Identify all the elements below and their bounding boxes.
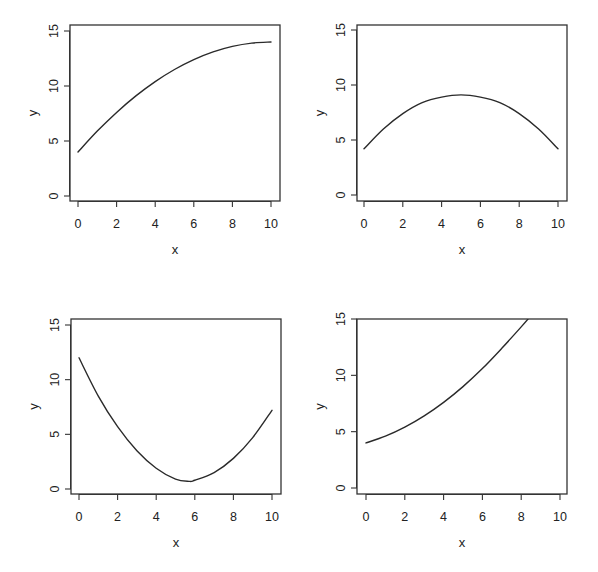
x-tick-label: 8 — [229, 217, 236, 231]
y-tick-label: 0 — [47, 192, 61, 199]
y-tick-label: 5 — [334, 428, 348, 435]
plot-panel-top-left: 0246810x051015y — [25, 24, 281, 257]
y-tick-label: 15 — [334, 23, 348, 37]
x-tick-label: 0 — [76, 510, 83, 524]
y-axis: 051015y — [25, 24, 71, 199]
y-axis-title: y — [312, 403, 327, 410]
x-tick-label: 2 — [399, 217, 406, 231]
x-axis: 0246810x — [361, 201, 565, 257]
x-tick-label: 6 — [191, 510, 198, 524]
x-tick-label: 0 — [363, 510, 370, 524]
x-tick-label: 2 — [114, 510, 121, 524]
y-tick-label: 10 — [334, 78, 348, 92]
x-tick-label: 8 — [516, 217, 523, 231]
data-curve — [364, 95, 558, 149]
y-axis-title: y — [25, 109, 40, 116]
x-tick-label: 10 — [264, 217, 278, 231]
y-tick-label: 15 — [47, 24, 61, 38]
y-tick-label: 5 — [334, 136, 348, 143]
x-axis: 0246810x — [75, 201, 278, 257]
y-tick-label: 0 — [48, 485, 62, 492]
x-tick-label: 8 — [518, 510, 525, 524]
y-tick-label: 15 — [334, 312, 348, 326]
x-axis-title: x — [459, 242, 466, 257]
y-axis: 051015y — [26, 318, 72, 492]
x-tick-label: 0 — [361, 217, 368, 231]
y-axis-title: y — [26, 403, 41, 410]
x-tick-label: 6 — [477, 217, 484, 231]
x-tick-label: 0 — [75, 217, 82, 231]
x-tick-label: 2 — [401, 510, 408, 524]
x-tick-label: 4 — [153, 510, 160, 524]
y-tick-label: 10 — [334, 368, 348, 382]
y-axis: 051015y — [312, 23, 358, 198]
plot-panel-bottom-right: 0246810x051015y — [312, 312, 568, 550]
data-curve — [78, 42, 271, 152]
x-tick-label: 2 — [113, 217, 120, 231]
x-tick-label: 4 — [152, 217, 159, 231]
plot-panel-bottom-left: 0246810x051015y — [26, 318, 282, 550]
plot-frame — [71, 319, 281, 494]
plot-frame — [357, 319, 567, 494]
x-tick-label: 10 — [551, 217, 565, 231]
x-axis-title: x — [172, 242, 179, 257]
figure: 0246810x051015y0246810x051015y0246810x05… — [0, 0, 598, 572]
plot-frame — [70, 25, 280, 201]
x-tick-label: 4 — [440, 510, 447, 524]
x-tick-label: 6 — [479, 510, 486, 524]
y-tick-label: 10 — [48, 373, 62, 387]
x-tick-label: 8 — [230, 510, 237, 524]
y-tick-label: 0 — [334, 484, 348, 491]
x-tick-label: 10 — [265, 510, 279, 524]
y-tick-label: 15 — [48, 318, 62, 332]
x-tick-label: 4 — [438, 217, 445, 231]
x-axis-title: x — [173, 535, 180, 550]
plot-panel-top-right: 0246810x051015y — [312, 23, 568, 257]
x-tick-label: 10 — [553, 510, 567, 524]
plot-frame — [357, 25, 567, 201]
y-tick-label: 5 — [48, 431, 62, 438]
x-axis: 0246810x — [363, 494, 567, 550]
data-curve — [79, 358, 272, 482]
y-tick-label: 0 — [334, 191, 348, 198]
y-tick-label: 5 — [47, 137, 61, 144]
data-curve — [366, 316, 531, 443]
x-tick-label: 6 — [190, 217, 197, 231]
y-tick-label: 10 — [47, 79, 61, 93]
x-axis: 0246810x — [76, 494, 279, 550]
x-axis-title: x — [459, 535, 466, 550]
y-axis-title: y — [312, 109, 327, 116]
y-axis: 051015y — [312, 312, 358, 491]
